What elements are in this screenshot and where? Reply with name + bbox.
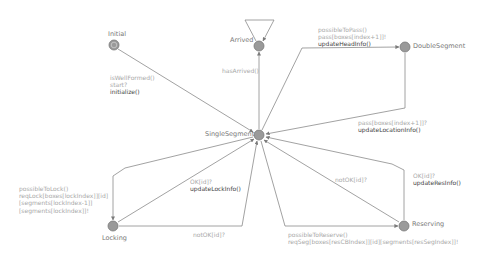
edge-single-to-double[interactable] [262, 47, 399, 130]
edge-label-reserving-to-single-ok: OK[id]? updateResInfo() [413, 172, 461, 186]
edge-label-reserving-to-single-notok: notOK[id]? [335, 176, 367, 183]
location-double-segment-node[interactable] [400, 42, 410, 52]
update-text: updateLockInfo() [190, 185, 241, 192]
edge-label-locking-to-single-ok: OK[id]? updateLockInfo() [190, 178, 241, 192]
guard-text: possibleToPass() [318, 26, 386, 33]
location-initial-node[interactable] [109, 40, 119, 50]
sync-text: OK[id]? [190, 178, 241, 185]
sync-text: reqLock[boxes[lockIndex]][id] [19, 192, 108, 199]
edge-single-to-reserving[interactable] [261, 141, 398, 226]
sync-text: reqSeg[boxes[resCBIndex]][id][segments[r… [288, 238, 458, 245]
location-label-single-segment: SingleSegment [205, 131, 254, 138]
location-locking-node[interactable] [108, 221, 118, 231]
update-text: updateResInfo() [413, 179, 461, 186]
location-arrived-node[interactable] [254, 41, 264, 51]
location-label-reserving: Reserving [412, 221, 444, 228]
sync-text: pass[boxes[index+1]]? [358, 119, 427, 126]
edge-label-single-to-double: possibleToPass() pass[boxes[index+1]]! u… [318, 26, 386, 48]
sync-text-cont: [segments[lockIndex]]! [19, 207, 108, 214]
update-text: updateHeadInfo() [318, 40, 386, 47]
location-label-arrived: Arrived [230, 37, 253, 44]
update-text: updateLocationInfo() [358, 126, 427, 133]
update-text: initialize() [110, 88, 155, 95]
edge-label-single-to-reserving: possibleToReserve() reqSeg[boxes[resCBIn… [288, 231, 458, 245]
edge-label-locking-to-single-notok: notOK[id]? [193, 231, 225, 238]
sync-text: notOK[id]? [335, 176, 367, 183]
edge-label-initial-to-single: isWellFormed() start? initialize() [110, 74, 155, 96]
sync-text: start? [110, 81, 155, 88]
sync-text-cont: [segments[lockIndex-1]] [19, 199, 108, 206]
sync-text: pass[boxes[index+1]]! [318, 33, 386, 40]
edge-label-single-to-locking: possibleToLock() reqLock[boxes[lockIndex… [19, 185, 108, 214]
location-single-segment-node[interactable] [254, 130, 264, 140]
location-label-initial: Initial [108, 31, 126, 38]
sync-text: notOK[id]? [193, 231, 225, 238]
edge-reserving-to-single-notok[interactable] [264, 140, 399, 222]
guard-text: possibleToLock() [19, 185, 108, 192]
location-reserving-node[interactable] [399, 221, 409, 231]
edge-label-single-to-arrived: hasArrived() [222, 67, 259, 74]
edge-label-double-to-single: pass[boxes[index+1]]? updateLocationInfo… [358, 119, 427, 133]
guard-text: possibleToReserve() [288, 231, 458, 238]
location-label-double-segment: DoubleSegment [413, 43, 465, 50]
guard-text: isWellFormed() [110, 74, 155, 81]
sync-text: OK[id]? [413, 172, 461, 179]
location-label-locking: Locking [102, 235, 127, 242]
guard-text: hasArrived() [222, 67, 259, 74]
